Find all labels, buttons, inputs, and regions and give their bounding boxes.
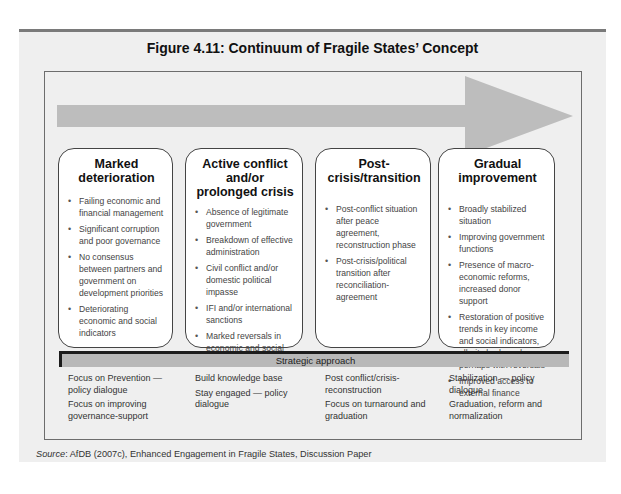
stage-heading: Marked deterioration (67, 157, 166, 185)
source-label: Source (36, 449, 65, 459)
list-item: •IFI and/or international sanctions (194, 302, 296, 326)
source-caption: Source: AfDB (2007c), Enhanced Engagemen… (36, 449, 372, 459)
stage-bullet-list: •Absence of legitimate government •Break… (194, 206, 296, 366)
approach-column-4: Stabilization — policy dialogue Graduati… (449, 373, 567, 425)
bullet-icon: • (195, 206, 198, 218)
strategic-approach-bar: Strategic approach (59, 351, 569, 367)
approach-text: Build knowledge base (195, 373, 313, 385)
bullet-icon: • (325, 255, 328, 267)
bullet-icon: • (448, 311, 451, 323)
list-item: •Presence of macro-economic reforms, inc… (447, 259, 548, 307)
bullet-icon: • (195, 330, 198, 342)
list-item: •Absence of legitimate government (194, 206, 296, 230)
bullet-icon: • (448, 203, 451, 215)
list-item: •Broadly stabilized situation (447, 203, 548, 227)
approach-text: Focus on improving governance-support (68, 399, 186, 422)
stage-bullet-list: •Post-conflict situation after peace agr… (324, 203, 424, 303)
approach-text: Focus on turnaround and graduation (325, 399, 443, 422)
stage-heading: Gradual improvement (447, 157, 548, 185)
stage-bullet-list: •Broadly stabilized situation •Improving… (447, 203, 548, 399)
bullet-icon: • (448, 259, 451, 271)
stage-card-post-crisis: Post-crisis/transition •Post-conflict si… (315, 148, 431, 348)
approach-column-3: Post conflict/crisis-reconstruction Focu… (325, 373, 443, 425)
approach-text: Post conflict/crisis-reconstruction (325, 373, 443, 396)
bullet-icon: • (195, 262, 198, 274)
list-item: •Civil conflict and/or domestic politica… (194, 262, 296, 298)
bullet-icon: • (325, 203, 328, 215)
figure-title: Figure 4.11: Continuum of Fragile States… (19, 40, 606, 56)
list-item: •Deteriorating economic and social indic… (67, 303, 166, 339)
stage-bullet-list: •Failing economic and financial manageme… (67, 195, 166, 339)
bullet-icon: • (68, 195, 71, 207)
bullet-icon: • (68, 303, 71, 315)
list-item: •Post-crisis/political transition after … (324, 255, 424, 303)
approach-text: Stay engaged — policy dialogue (195, 388, 313, 411)
diagram-frame: Marked deterioration •Failing economic a… (44, 71, 582, 440)
figure-panel: Figure 4.11: Continuum of Fragile States… (19, 29, 606, 462)
list-item: •Significant corruption and poor governa… (67, 223, 166, 247)
bullet-icon: • (68, 223, 71, 235)
stage-heading: Post-crisis/transition (324, 157, 424, 185)
approach-text: Stabilization — policy dialogue (449, 373, 567, 396)
list-item: •Breakdown of effective administration (194, 234, 296, 258)
approach-column-1: Focus on Prevention — policy dialogue Fo… (68, 373, 186, 425)
approach-text: Graduation, reform and normalization (449, 399, 567, 422)
list-item: •Post-conflict situation after peace agr… (324, 203, 424, 251)
stage-card-marked-deterioration: Marked deterioration •Failing economic a… (58, 148, 173, 348)
list-item: •Failing economic and financial manageme… (67, 195, 166, 219)
list-item: •Improving government functions (447, 231, 548, 255)
source-text: : AfDB (2007c), Enhanced Engagement in F… (65, 449, 371, 459)
stage-card-active-conflict: Active conflict and/or prolonged crisis … (185, 148, 303, 348)
stage-heading: Active conflict and/or prolonged crisis (194, 157, 296, 199)
approach-text: Focus on Prevention — policy dialogue (68, 373, 186, 396)
bullet-icon: • (195, 234, 198, 246)
approach-column-2: Build knowledge base Stay engaged — poli… (195, 373, 313, 414)
bullet-icon: • (68, 251, 71, 263)
list-item: •No consensus between partners and gover… (67, 251, 166, 299)
bullet-icon: • (195, 302, 198, 314)
bullet-icon: • (448, 231, 451, 243)
stage-card-gradual-improvement: Gradual improvement •Broadly stabilized … (438, 148, 555, 348)
